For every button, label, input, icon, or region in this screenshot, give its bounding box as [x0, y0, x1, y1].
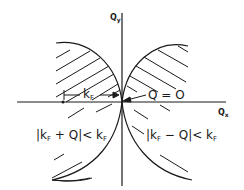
right-region-label: |kF − Q|< kF: [146, 128, 217, 143]
fermi-sphere-diagram: Qy Qx kF Q = O |kF + Q|< kF |kF − Q|< kF: [0, 0, 244, 190]
left-region-label: |kF + Q|< kF: [36, 128, 107, 143]
left-circle-arc: [52, 42, 122, 180]
kf-label: kF: [83, 87, 94, 102]
minus-kf-point: [62, 101, 65, 104]
origin-arrow: [123, 95, 146, 102]
qx-axis-label: Qx: [218, 108, 229, 118]
qy-axis-label: Qy: [110, 13, 121, 24]
origin-label: Q = O: [148, 88, 185, 102]
right-hatch: [127, 46, 188, 92]
